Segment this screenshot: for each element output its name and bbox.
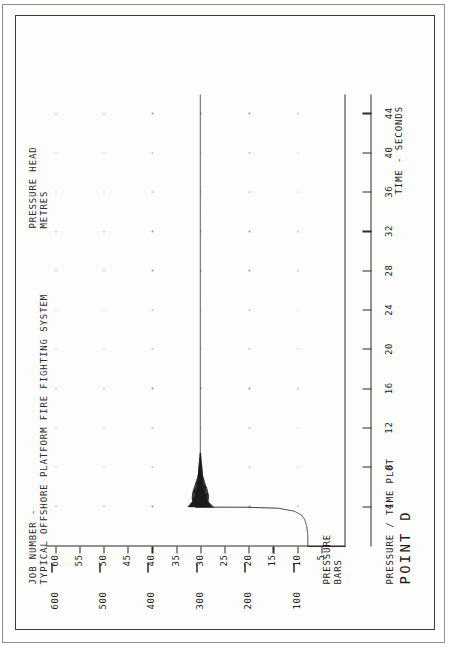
- x-tick: [362, 466, 371, 467]
- y-tick-label: 10: [291, 554, 301, 580]
- y-tick-label: 20: [242, 554, 252, 580]
- point-label: POINT D: [398, 458, 411, 584]
- y2-tick: [244, 563, 245, 572]
- x-tick: [362, 112, 371, 113]
- y2-tick: [147, 563, 148, 572]
- pressure-curve: [187, 94, 307, 546]
- y-axis-title-line2: BARS: [332, 559, 342, 584]
- x-tick: [362, 309, 371, 310]
- y2-tick-label: 500: [97, 591, 107, 621]
- x-tick-label: 36: [383, 183, 393, 199]
- y2-tick: [51, 563, 52, 572]
- x-tick: [362, 191, 371, 192]
- y-tick: [297, 546, 298, 553]
- x-tick: [362, 427, 371, 428]
- y2-tick: [293, 563, 294, 572]
- y-tick: [272, 546, 273, 553]
- x-tick: [362, 388, 371, 389]
- x-tick-label: 24: [383, 301, 393, 317]
- y-tick: [248, 546, 249, 553]
- job-number-line: JOB NUMBER -: [27, 508, 37, 584]
- time-axis-rule: [370, 94, 371, 546]
- y-tick-label: 5: [315, 554, 325, 580]
- y-tick: [200, 546, 201, 553]
- pressure-trace: [45, 94, 345, 546]
- y2-tick: [196, 563, 197, 572]
- y2-tick-label: 100: [291, 591, 301, 621]
- y2-tick-label: 300: [194, 591, 204, 621]
- y-tick-label: 50: [97, 554, 107, 580]
- y-tick-label: 45: [121, 554, 131, 580]
- x-tick-label: 12: [383, 419, 393, 435]
- x-tick-label: 40: [383, 144, 393, 160]
- y-tick: [103, 546, 104, 553]
- y-tick: [127, 546, 128, 553]
- x-tick-label: 16: [383, 380, 393, 396]
- y-tick: [176, 546, 177, 553]
- caption-text: PRESSURE / TIME PLOT: [384, 458, 394, 584]
- y-tick: [151, 546, 152, 553]
- x-tick-label: 44: [383, 105, 393, 121]
- chart-stage: JOB NUMBER - TYPICAL OFFSHORE PLATFORM F…: [21, 24, 426, 624]
- y-tick: [79, 546, 80, 553]
- y2-tick: [99, 563, 100, 572]
- y-tick-label: 30: [194, 554, 204, 580]
- y-tick-label: 15: [266, 554, 276, 580]
- x-tick: [362, 270, 371, 271]
- x-tick-label: 4: [383, 498, 393, 514]
- x-tick-label: 32: [383, 223, 393, 239]
- plot-caption: PRESSURE / TIME PLOT POINT D: [383, 458, 411, 584]
- scanned-page: JOB NUMBER - TYPICAL OFFSHORE PLATFORM F…: [0, 0, 450, 649]
- plot-area: 51015202530354045505560 1002003004005006…: [45, 94, 345, 546]
- y2-tick-label: 200: [242, 591, 252, 621]
- y-tick: [321, 546, 322, 553]
- x-tick: [362, 506, 371, 507]
- y-tick-label: 60: [49, 554, 59, 580]
- pressure-head-line: PRESSURE HEAD: [27, 146, 37, 228]
- x-tick: [362, 230, 371, 231]
- y-tick-label: 55: [73, 554, 83, 580]
- y2-tick-label: 400: [145, 591, 155, 621]
- x-tick: [362, 152, 371, 153]
- x-axis-title: TIME - SECONDS: [393, 106, 403, 194]
- y-tick-label: 40: [145, 554, 155, 580]
- x-tick: [362, 348, 371, 349]
- x-tick-label: 20: [383, 340, 393, 356]
- paper-sheet: JOB NUMBER - TYPICAL OFFSHORE PLATFORM F…: [2, 4, 445, 643]
- y2-tick-label: 600: [49, 591, 59, 621]
- x-tick-label: 8: [383, 458, 393, 474]
- y-tick: [55, 546, 56, 553]
- y-tick-label: 25: [218, 554, 228, 580]
- y-tick: [224, 546, 225, 553]
- y-tick-label: 35: [170, 554, 180, 580]
- x-tick-label: 28: [383, 262, 393, 278]
